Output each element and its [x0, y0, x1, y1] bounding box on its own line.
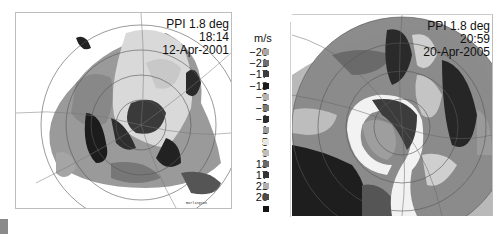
legend-swatch [263, 83, 269, 89]
legend-swatch [263, 116, 269, 122]
legend-swatch [263, 161, 269, 167]
right-date-label: 20-Apr-2005 [423, 46, 490, 59]
left-ppi-title: PPI 1.8 deg 18:14 12-Apr-2001 [162, 18, 229, 57]
legend-swatch [263, 105, 269, 111]
legend-entry [236, 204, 290, 215]
legend-swatch [263, 194, 269, 200]
legend-swatch [263, 139, 269, 145]
legend-swatch [263, 49, 269, 55]
legend-entry: −17 [236, 69, 290, 80]
legend-entry: 1 [236, 125, 290, 136]
legend-swatch [263, 60, 269, 66]
panel-divider [290, 22, 291, 217]
right-ppi-title: PPI 1.8 deg 20:59 20-Apr-2005 [423, 20, 490, 59]
right-radar-ppi-panel: PPI 1.8 deg 20:59 20-Apr-2005 [292, 14, 493, 216]
legend-swatch [263, 183, 269, 189]
legend-swatch [263, 150, 269, 156]
map-label-burlington: Burlington [186, 201, 207, 205]
legend-entry: 5 [236, 137, 290, 148]
legend-swatch [263, 172, 269, 178]
legend-swatch [263, 127, 269, 133]
legend-unit: m/s [254, 32, 272, 44]
caption-marker [0, 219, 8, 234]
left-date-label: 12-Apr-2001 [162, 44, 229, 57]
legend-rows: −26−21−17−13−9−5−115913172126 [236, 47, 290, 215]
left-radar-ppi-panel: Burlington PPI 1.8 deg 18:14 12-Apr-2001 [15, 12, 232, 209]
legend-entry: 26 [236, 192, 290, 203]
legend-swatch [263, 206, 269, 212]
legend-swatch [263, 94, 269, 100]
legend-swatch [263, 71, 269, 77]
